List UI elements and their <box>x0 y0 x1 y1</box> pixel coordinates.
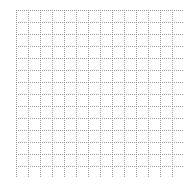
grid-lines <box>16 10 184 178</box>
dotted-grid <box>16 10 184 178</box>
grid-canvas <box>0 0 184 178</box>
